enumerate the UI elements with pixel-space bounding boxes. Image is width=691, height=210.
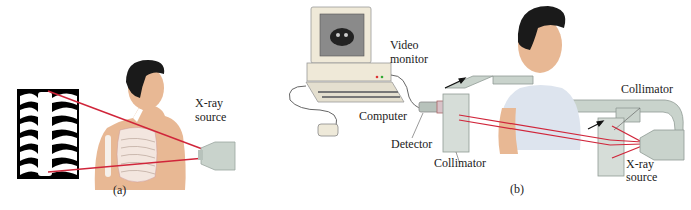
collimator-left-label: Collimator: [434, 157, 486, 170]
collimator-right: [598, 118, 624, 176]
detector-label: Detector: [391, 138, 432, 151]
panel-a-label: (a): [113, 184, 126, 197]
detector: [419, 101, 445, 113]
collimator-right-label: Collimator: [621, 83, 673, 96]
collimator-left: [443, 94, 469, 152]
xray-film-image: [17, 89, 79, 179]
xray-source-b: [640, 130, 684, 160]
video-monitor-label: Video monitor: [390, 38, 428, 66]
xray-source-label-b: X-ray source: [626, 158, 657, 184]
video-monitor-label-line2: monitor: [390, 52, 428, 66]
xray-source-a: [198, 142, 235, 170]
xray-source-label-a: X-ray source: [195, 96, 226, 124]
xray-diagram: X-ray source (a) Video monitor Computer …: [0, 0, 691, 210]
diagram-graphics: [0, 0, 691, 210]
video-monitor-label-line1: Video: [390, 38, 428, 52]
computer-label: Computer: [359, 110, 407, 123]
xray-source-label-b-line2: source: [626, 171, 657, 184]
xray-source-label-a-line2: source: [195, 110, 226, 124]
xray-source-label-a-line1: X-ray: [195, 96, 226, 110]
panel-b-label: (b): [510, 183, 524, 196]
